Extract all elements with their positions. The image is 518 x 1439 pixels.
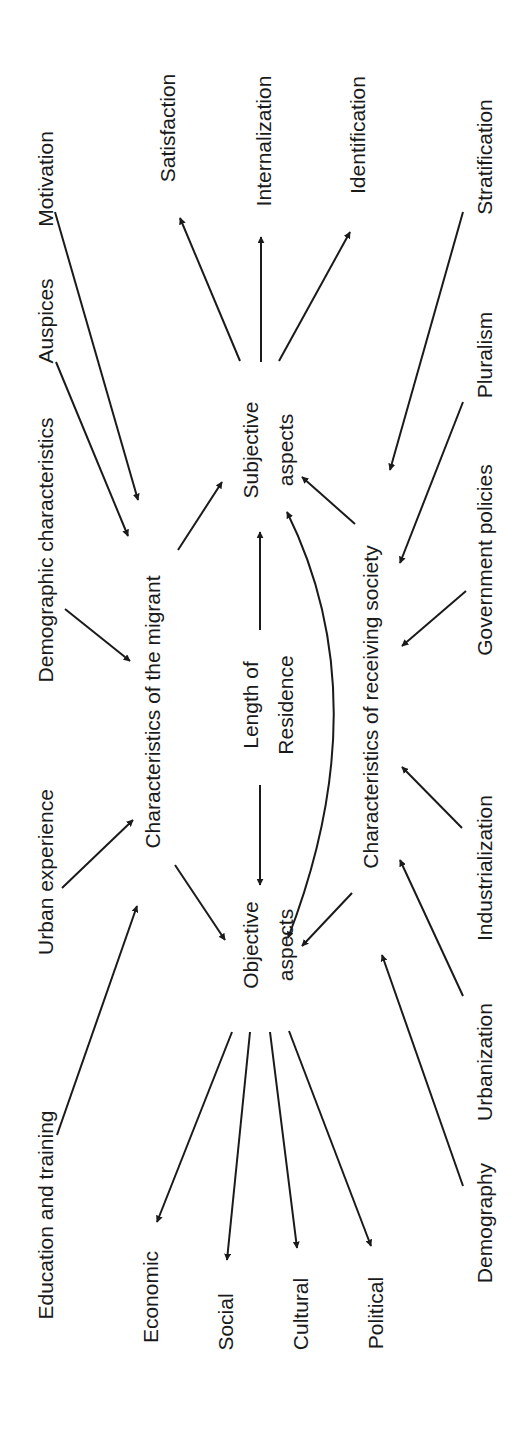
arrow-urban_exp-to-char_migrant [62, 820, 133, 888]
node-length-2: Residence [274, 655, 297, 754]
node-social: Social [214, 1293, 237, 1350]
arrow-objective-to-political [289, 1031, 371, 1246]
node-objective-1: Objective [239, 901, 262, 989]
arrow-motivation-to-char_migrant [55, 212, 138, 500]
node-identification: Identification [346, 76, 369, 194]
arrow-char_migrant-to-objective [175, 865, 225, 940]
node-satisfaction: Satisfaction [156, 74, 179, 183]
node-stratification: Stratification [473, 99, 496, 215]
node-cultural: Cultural [289, 1278, 312, 1350]
node-subjective-1: Subjective [239, 402, 262, 499]
node-gov-policies: Government policies [473, 464, 496, 655]
nodes-layer: Education and trainingUrban experienceDe… [34, 74, 496, 1351]
arrow-gov_policies-to-char_society [402, 591, 466, 646]
node-demography: Demography [473, 1162, 496, 1283]
arrow-char_society-to-subjective [302, 477, 355, 524]
arrow-industrialization-to-char_society [402, 767, 462, 828]
arrow-demographic_char-to-char_migrant [65, 609, 130, 661]
node-char-migrant: Characteristics of the migrant [141, 575, 164, 848]
acculturation-diagram: Education and trainingUrban experienceDe… [0, 0, 518, 1439]
arrow-char_migrant-to-subjective [178, 482, 222, 550]
arrow-char_society-to-objective [302, 893, 352, 946]
arrow-objective-to-cultural [270, 1032, 297, 1248]
node-education: Education and training [34, 1111, 57, 1320]
arrow-objective-to-economic [157, 1032, 232, 1222]
node-internalization: Internalization [252, 76, 275, 207]
arrow-auspices-to-char_migrant [56, 362, 128, 536]
node-economic: Economic [139, 1251, 162, 1343]
node-urbanization: Urbanization [473, 1003, 496, 1121]
node-urban-exp: Urban experience [34, 789, 57, 955]
arrow-subjective-to-identification [279, 232, 350, 361]
node-subjective-2: aspects [274, 414, 297, 486]
node-char-society: Characteristics of receiving society [359, 545, 382, 869]
node-objective-2: aspects [274, 909, 297, 981]
node-demographic-char: Demographic characteristics [34, 418, 57, 683]
node-industrialization: Industrialization [473, 795, 496, 941]
node-auspices: Auspices [34, 278, 57, 363]
node-political: Political [364, 1277, 387, 1349]
node-length-1: Length of [239, 661, 262, 749]
arrow-subjective-to-satisfaction [180, 218, 240, 361]
node-pluralism: Pluralism [473, 312, 496, 398]
arrow-education-to-char_migrant [57, 906, 137, 1135]
arrow-urbanization-to-char_society [400, 860, 463, 996]
arrow-objective-to-social [227, 1032, 250, 1260]
node-motivation: Motivation [34, 131, 57, 227]
arrow-demography-to-char_society [382, 955, 463, 1186]
arrow-pluralism-to-char_society [400, 402, 463, 563]
